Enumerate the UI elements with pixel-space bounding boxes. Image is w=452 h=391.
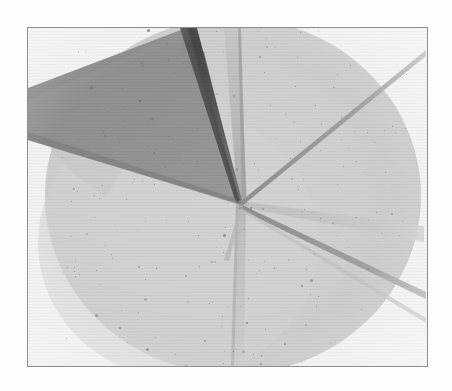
- figure-root: [0, 0, 452, 391]
- plate-inner: [28, 28, 427, 366]
- convergence-point: [238, 200, 244, 206]
- plate-frame: [27, 27, 428, 367]
- plate-graphic: [28, 28, 427, 366]
